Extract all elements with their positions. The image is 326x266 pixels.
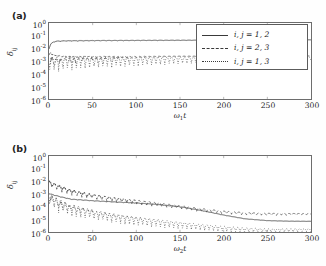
legend-line-dotted-icon <box>201 56 229 66</box>
y-tick-b-5: 10-5 <box>31 214 46 226</box>
panel-b-x-tick-labels: 0 50 100 150 200 250 300 <box>0 234 326 248</box>
x-tick-a-6: 300 <box>305 101 320 110</box>
panel-a: (a) 100 10-1 10-2 10-3 10-4 10-5 10-6 δi… <box>0 0 326 133</box>
y-tick-a-1: 10-1 <box>31 29 46 41</box>
panel-b-x-axis-title: ω2t <box>174 244 186 254</box>
series-curve <box>49 194 311 222</box>
x-tick-b-5: 250 <box>261 234 276 243</box>
y-tick-b-2: 10-2 <box>31 175 46 187</box>
y-tick-a-2: 10-2 <box>31 42 46 54</box>
panel-a-y-axis-title: δij <box>6 48 17 56</box>
panel-a-x-axis-title: ω1t <box>174 111 186 121</box>
x-tick-a-2: 100 <box>129 101 144 110</box>
legend-item: i, j = 1, 3 <box>201 55 303 68</box>
legend-item: i, j = 1, 2 <box>201 28 303 41</box>
x-tick-b-0: 0 <box>46 234 51 243</box>
legend-label: i, j = 2, 3 <box>234 43 269 52</box>
x-tick-a-3: 150 <box>173 101 188 110</box>
x-tick-b-3: 150 <box>173 234 188 243</box>
panel-b: (b) 100 10-1 10-2 10-3 10-4 10-5 10-6 δi… <box>0 133 326 266</box>
legend-label: i, j = 1, 2 <box>234 30 269 39</box>
panel-b-curves <box>49 156 311 232</box>
y-tick-b-4: 10-4 <box>31 201 46 213</box>
y-tick-b-1: 10-1 <box>31 162 46 174</box>
legend-item: i, j = 2, 3 <box>201 41 303 54</box>
legend-line-solid-icon <box>201 30 229 40</box>
y-tick-a-4: 10-4 <box>31 68 46 80</box>
legend-line-dashed-icon <box>201 43 229 53</box>
x-tick-a-1: 50 <box>87 101 97 110</box>
x-tick-a-0: 0 <box>46 101 51 110</box>
panel-a-x-tick-labels: 0 50 100 150 200 250 300 <box>0 101 326 115</box>
x-tick-b-2: 100 <box>129 234 144 243</box>
x-tick-a-4: 200 <box>217 101 232 110</box>
x-tick-b-1: 50 <box>87 234 97 243</box>
panel-b-plot-area <box>48 155 312 233</box>
x-tick-a-5: 250 <box>261 101 276 110</box>
x-tick-b-4: 200 <box>217 234 232 243</box>
panel-b-y-axis-title: δij <box>6 181 17 189</box>
y-tick-a-5: 10-5 <box>31 81 46 93</box>
legend-label: i, j = 1, 3 <box>234 57 269 66</box>
x-tick-b-6: 300 <box>305 234 320 243</box>
panel-a-legend: i, j = 1, 2 i, j = 2, 3 i, j = 1, 3 <box>196 24 308 70</box>
y-tick-a-3: 10-3 <box>31 55 46 67</box>
y-tick-a-0: 100 <box>33 18 46 30</box>
y-tick-b-3: 10-3 <box>31 188 46 200</box>
figure-root: (a) 100 10-1 10-2 10-3 10-4 10-5 10-6 δi… <box>0 0 326 266</box>
y-tick-b-0: 100 <box>33 151 46 163</box>
